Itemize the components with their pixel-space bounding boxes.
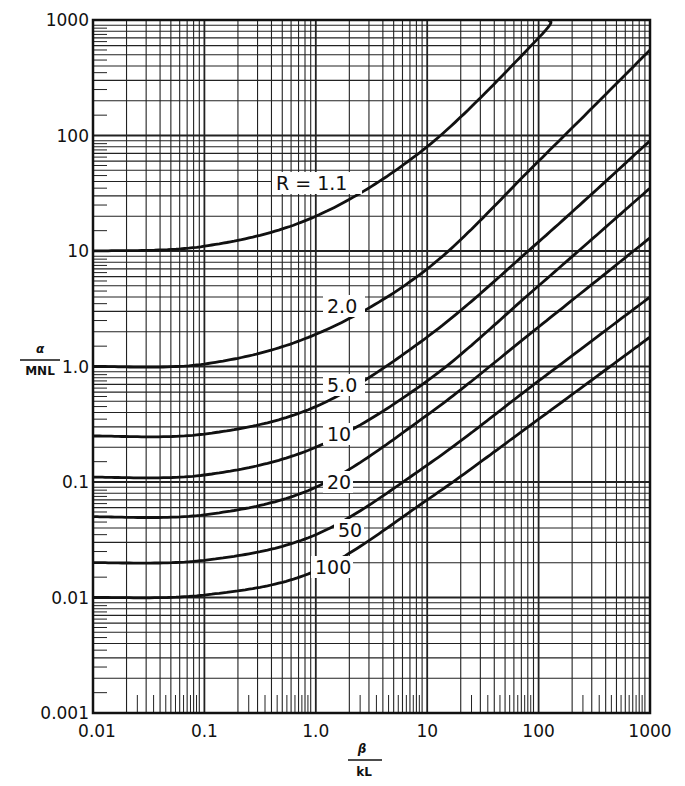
y-axis-label: α MNL — [20, 342, 60, 378]
x-tick-label: 100 — [522, 721, 554, 741]
curve-label: 100 — [315, 556, 351, 578]
y-tick-label: 100 — [57, 126, 89, 146]
x-label-denominator: kL — [356, 765, 372, 779]
x-tick-label: 10 — [416, 721, 438, 741]
y-label-numerator: α — [36, 342, 45, 356]
curve-r-2-0 — [93, 50, 650, 367]
curve-label: 5.0 — [327, 374, 357, 396]
curve-label: 10 — [327, 423, 351, 445]
curve-r-10 — [93, 188, 650, 478]
x-axis-label: β kL — [348, 742, 382, 779]
x-tick-label: 0.01 — [78, 721, 116, 741]
x-tick-label: 0.1 — [191, 721, 218, 741]
y-tick-label: 0.001 — [40, 703, 89, 723]
curve-r-50 — [93, 297, 650, 563]
data-curves — [93, 20, 650, 598]
x-axis-tick-labels: 0.010.11.0101001000 — [78, 721, 672, 741]
y-tick-label: 0.1 — [62, 472, 89, 492]
y-label-denominator: MNL — [25, 364, 55, 378]
x-tick-label: 1.0 — [302, 721, 329, 741]
y-tick-label: 10 — [67, 241, 89, 261]
x-label-numerator: β — [357, 742, 367, 756]
chart: R = 1.12.05.0102050100 0.010.11.01010010… — [0, 0, 685, 786]
x-tick-label: 1000 — [628, 721, 671, 741]
y-tick-label: 1.0 — [62, 357, 89, 377]
curve-label: 20 — [327, 471, 351, 493]
y-tick-label: 1000 — [46, 10, 89, 30]
curve-label: 50 — [338, 519, 362, 541]
curve-label: 2.0 — [327, 295, 357, 317]
y-tick-label: 0.01 — [51, 588, 89, 608]
curve-label: R = 1.1 — [276, 172, 347, 194]
